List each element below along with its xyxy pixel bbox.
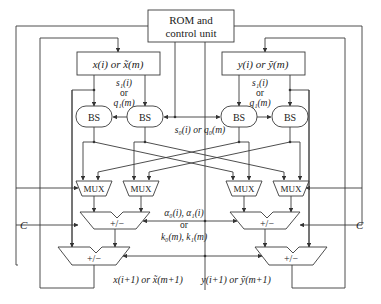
svg-text:+/−: +/− bbox=[87, 253, 101, 264]
left-coef-label: s₁(i) or q₁(m) bbox=[113, 78, 134, 109]
svg-text:MUX: MUX bbox=[233, 184, 255, 194]
rom-label-2: control unit bbox=[165, 27, 216, 39]
svg-text:or: or bbox=[180, 220, 189, 230]
mux-1: MUX bbox=[76, 181, 112, 196]
bs-block-x1: BS bbox=[76, 106, 112, 127]
mux-2: MUX bbox=[123, 181, 159, 196]
rom-label-1: ROM and bbox=[169, 14, 213, 26]
x-output-label: x(i+1) or x̃(m+1) bbox=[112, 274, 183, 286]
adder-x1: +/− bbox=[80, 212, 150, 229]
svg-text:BS: BS bbox=[284, 112, 296, 123]
y-register-label: y(i) or ỹ(m) bbox=[237, 58, 289, 71]
svg-text:BS: BS bbox=[139, 112, 151, 123]
bs-block-y2: BS bbox=[272, 106, 308, 127]
y-register: y(i) or ỹ(m) bbox=[222, 52, 305, 75]
svg-text:α₀(i), α₁(i): α₀(i), α₁(i) bbox=[164, 208, 203, 219]
svg-text:k₀(m), k₁(m): k₀(m), k₁(m) bbox=[161, 232, 207, 243]
adder-y2: +/− bbox=[255, 247, 327, 265]
c-left-label: C bbox=[20, 219, 28, 231]
svg-text:+/−: +/− bbox=[110, 218, 124, 229]
adder-x2: +/− bbox=[58, 247, 130, 265]
svg-text:MUX: MUX bbox=[280, 184, 302, 194]
svg-text:MUX: MUX bbox=[130, 184, 152, 194]
svg-text:or: or bbox=[120, 88, 129, 98]
rom-control-unit: ROM and control unit bbox=[148, 10, 234, 42]
x-register: x(i) or x̃(m) bbox=[77, 52, 160, 75]
cordic-architecture-diagram: ROM and control unit x(i) or x̃(m) y(i) … bbox=[0, 0, 381, 304]
svg-text:BS: BS bbox=[88, 112, 100, 123]
bs-block-y1: BS bbox=[221, 106, 257, 127]
svg-text:+/−: +/− bbox=[284, 253, 298, 264]
c-right-label: C bbox=[356, 219, 364, 231]
alpha-k-label: α₀(i), α₁(i) or k₀(m), k₁(m) bbox=[161, 208, 207, 243]
svg-text:+/−: +/− bbox=[260, 218, 274, 229]
svg-text:BS: BS bbox=[233, 112, 245, 123]
svg-text:MUX: MUX bbox=[83, 184, 105, 194]
bs-block-x2: BS bbox=[127, 106, 163, 127]
x-register-label: x(i) or x̃(m) bbox=[92, 58, 144, 71]
svg-text:or: or bbox=[256, 88, 265, 98]
center-coef-label: s₀(i) or q₀(m) bbox=[175, 125, 225, 136]
mux-4: MUX bbox=[273, 181, 309, 196]
adder-y1: +/− bbox=[230, 212, 300, 229]
mux-3: MUX bbox=[226, 181, 262, 196]
right-coef-label: s₁(i) or q₁(m) bbox=[249, 78, 270, 109]
y-output-label: y(i+1) or ỹ(m+1) bbox=[200, 274, 271, 286]
